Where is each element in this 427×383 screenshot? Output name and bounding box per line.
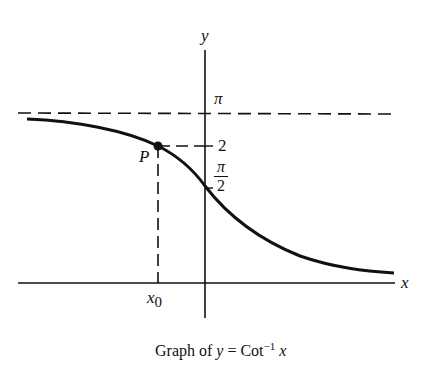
half-pi-numerator: π bbox=[214, 159, 228, 175]
half-pi-denominator: 2 bbox=[214, 178, 228, 194]
caption-eq: = Cot bbox=[223, 342, 263, 359]
figure-caption: Graph of y = Cot−1 x bbox=[155, 340, 286, 360]
y-axis-label: y bbox=[201, 27, 209, 44]
x0-subscript: 0 bbox=[155, 294, 163, 310]
x0-base: x bbox=[147, 288, 155, 307]
point-p bbox=[154, 142, 163, 151]
point-p-label: P bbox=[139, 148, 149, 165]
caption-prefix: Graph of bbox=[155, 342, 216, 359]
caption-sup: −1 bbox=[264, 340, 276, 352]
asymptote-pi bbox=[18, 113, 396, 114]
x-axis-label: x bbox=[401, 274, 409, 291]
two-label: 2 bbox=[218, 137, 227, 154]
arccot-curve bbox=[27, 119, 394, 273]
x0-label: x0 bbox=[147, 289, 162, 310]
pi-label: π bbox=[214, 90, 223, 107]
half-pi-label: π 2 bbox=[214, 159, 228, 194]
caption-arg: x bbox=[275, 342, 286, 359]
